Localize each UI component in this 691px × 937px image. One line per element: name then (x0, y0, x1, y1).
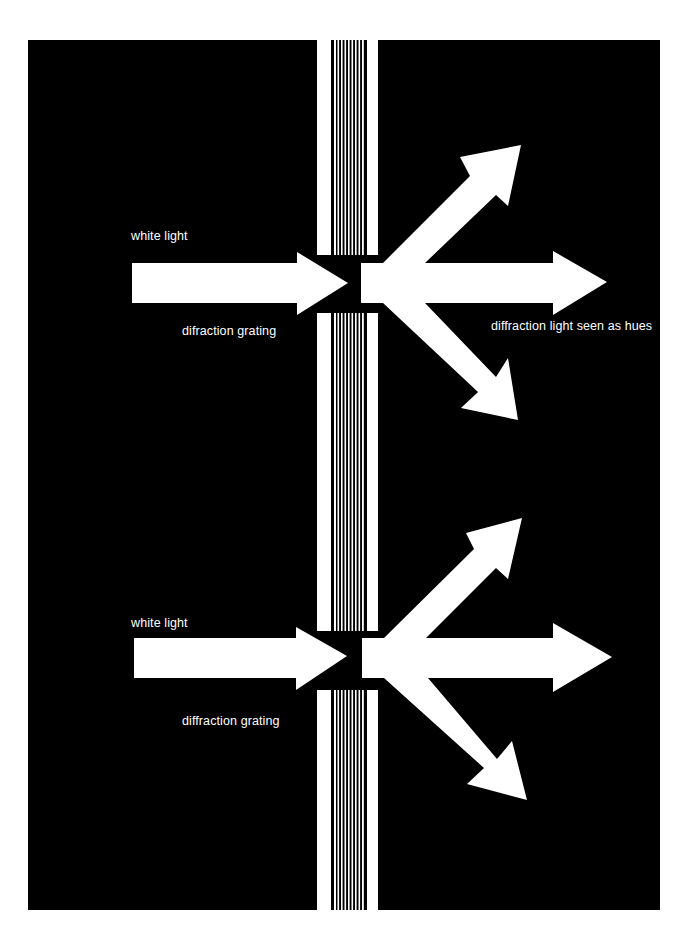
black-panel (28, 40, 660, 910)
grating-left-bar (317, 40, 331, 910)
grating-label: diffraction grating (182, 714, 280, 728)
diffraction-diagram (0, 0, 691, 937)
grating-label: difraction grating (182, 324, 276, 338)
white-light-label: white light (131, 229, 188, 243)
grating-stripes (334, 40, 364, 910)
hues-label: diffraction light seen as hues (491, 319, 652, 333)
white-light-label: white light (131, 616, 188, 630)
grating-right-bar (367, 40, 378, 910)
